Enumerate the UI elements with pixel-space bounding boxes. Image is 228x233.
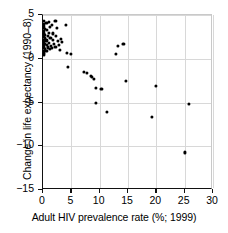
data-point (55, 27, 58, 30)
x-axis-tick (155, 189, 156, 193)
y-axis-tick-label: −10 (0, 138, 34, 150)
data-point (65, 51, 68, 54)
x-axis-tick-label: 15 (115, 194, 139, 206)
x-axis-tick-label: 25 (172, 194, 196, 206)
gridline-horizontal (43, 146, 211, 147)
data-point (150, 115, 153, 118)
data-point (184, 151, 187, 154)
data-point (54, 20, 57, 23)
data-point (94, 86, 97, 89)
gridline-vertical (156, 15, 157, 188)
data-point (116, 44, 119, 47)
data-point (60, 41, 63, 44)
data-point (86, 71, 89, 74)
gridline-horizontal (43, 15, 211, 16)
y-axis-tick-label: −15 (0, 182, 34, 194)
y-axis-tick-label: −5 (0, 95, 34, 107)
data-point (92, 77, 95, 80)
x-axis-tick-label: 0 (30, 194, 54, 206)
y-axis-tick (38, 102, 42, 103)
data-point (48, 31, 51, 34)
data-point (51, 38, 54, 41)
y-axis-tick (38, 189, 42, 190)
x-axis-tick (127, 189, 128, 193)
data-point (114, 52, 117, 55)
data-point (42, 53, 45, 56)
data-point (58, 48, 61, 51)
y-axis-tick (38, 14, 42, 15)
x-axis-tick-label: 10 (87, 194, 111, 206)
gridline-vertical (185, 15, 186, 188)
data-point (100, 87, 103, 90)
y-axis-tick (38, 145, 42, 146)
x-axis-tick (99, 189, 100, 193)
x-axis-tick (184, 189, 185, 193)
data-point (95, 101, 98, 104)
x-axis-tick-label: 20 (143, 194, 167, 206)
data-point (48, 26, 51, 29)
data-point (57, 43, 60, 46)
data-point (66, 65, 69, 68)
x-axis-tick (212, 189, 213, 193)
data-point (54, 34, 57, 37)
data-point (105, 111, 108, 114)
x-axis-tick (70, 189, 71, 193)
gridline-vertical (71, 15, 72, 188)
gridline-vertical (213, 15, 214, 188)
x-axis-title: Adult HIV prevalence rate (%; 1999) (0, 211, 228, 223)
scatter-chart-figure: Change in life expectancy (1990–8) Adult… (0, 0, 228, 233)
gridline-vertical (100, 15, 101, 188)
data-point (64, 23, 67, 26)
data-point (188, 103, 191, 106)
x-axis-tick-label: 5 (58, 194, 82, 206)
y-axis-tick-label: 0 (0, 51, 34, 63)
gridline-vertical (128, 15, 129, 188)
data-point (122, 42, 125, 45)
x-axis-tick (42, 189, 43, 193)
plot-area (42, 14, 212, 189)
x-axis-tick-label: 30 (200, 194, 224, 206)
gridline-horizontal (43, 59, 211, 60)
y-axis-tick (38, 58, 42, 59)
y-axis-tick-label: 5 (0, 7, 34, 19)
gridline-horizontal (43, 103, 211, 104)
data-point (50, 23, 53, 26)
